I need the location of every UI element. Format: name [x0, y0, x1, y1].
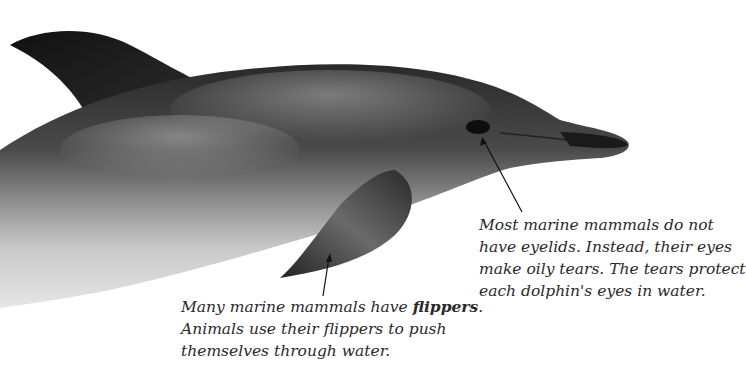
- eyes-caption-line: each dolphin's eyes in water.: [479, 280, 746, 302]
- flippers-caption: Many marine mammals have flippers. Anima…: [181, 296, 483, 362]
- flippers-caption-line: themselves through water.: [181, 340, 483, 362]
- eyes-caption: Most marine mammals do not have eyelids.…: [479, 214, 746, 302]
- eyes-caption-line: have eyelids. Instead, their eyes: [479, 236, 746, 258]
- flippers-caption-suffix: .: [478, 298, 483, 316]
- flippers-caption-line: Many marine mammals have flippers.: [181, 296, 483, 318]
- flippers-caption-line: Animals use their flippers to push: [181, 318, 483, 340]
- flippers-caption-prefix: Many marine mammals have: [181, 298, 413, 316]
- eyes-caption-line: Most marine mammals do not: [479, 214, 746, 236]
- dolphin-eye: [466, 120, 490, 134]
- flippers-term: flippers: [413, 297, 479, 316]
- eyes-caption-line: make oily tears. The tears protect: [479, 258, 746, 280]
